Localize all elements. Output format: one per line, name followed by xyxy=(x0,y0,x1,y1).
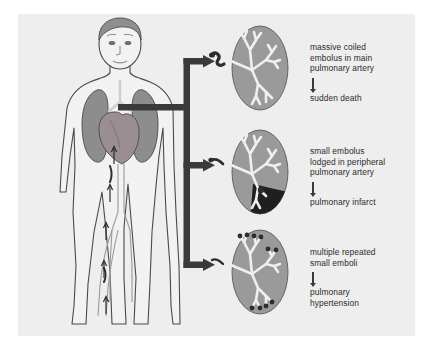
scenario-outcome: sudden death xyxy=(310,93,374,104)
scenario-cause: small embolus lodged in peripheral pulmo… xyxy=(310,146,385,178)
figure-root: massive coiled embolus in main pulmonary… xyxy=(0,0,431,350)
eye-left xyxy=(109,41,116,45)
scenario-text-repeated: multiple repeated small emboli pulmonary… xyxy=(310,247,376,308)
scenario-text-peripheral: small embolus lodged in peripheral pulmo… xyxy=(310,146,385,207)
down-arrow-icon xyxy=(312,182,314,193)
scenario-cause: multiple repeated small emboli xyxy=(310,247,376,268)
lung-peripheral-embolus xyxy=(206,128,298,220)
scenario-cause: massive coiled embolus in main pulmonary… xyxy=(310,42,374,74)
lung-multiple-emboli xyxy=(206,228,298,318)
down-arrow-icon xyxy=(312,272,314,283)
small-embolus xyxy=(258,187,264,193)
lung-massive-embolus xyxy=(206,24,298,112)
eye-right xyxy=(125,41,132,45)
down-arrow-icon xyxy=(312,78,314,89)
scenario-outcome: pulmonary hypertension xyxy=(310,287,376,308)
scenario-text-massive: massive coiled embolus in main pulmonary… xyxy=(310,42,374,103)
scenario-outcome: pulmonary infarct xyxy=(310,197,385,208)
